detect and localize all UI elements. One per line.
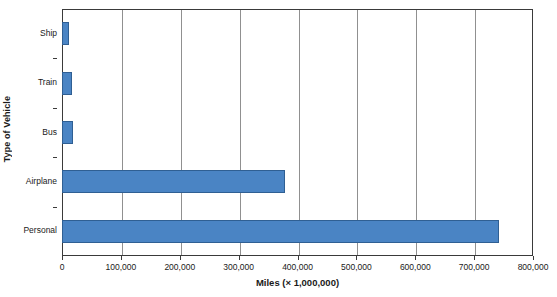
gridline: [357, 10, 358, 255]
x-tick-label-3: 300,000: [223, 262, 254, 272]
gridline: [181, 10, 182, 255]
x-axis-title: Miles (× 1,000,000): [62, 277, 533, 288]
x-tick-mark: [356, 256, 357, 260]
x-tick-mark: [180, 256, 181, 260]
gridline: [122, 10, 123, 255]
x-tick-mark: [415, 256, 416, 260]
x-tick-label-7: 700,000: [459, 262, 490, 272]
gridline: [240, 10, 241, 255]
y-axis-labels-group: ShipTrainBusAirplanePersonal: [0, 9, 57, 256]
y-tick-mark: [53, 207, 57, 208]
x-tick-mark: [62, 256, 63, 260]
x-tick-label-2: 200,000: [164, 262, 195, 272]
gridline: [416, 10, 417, 255]
bar-chart: Type of Vehicle ShipTrainBusAirplanePers…: [0, 0, 557, 297]
cropped-title-artifact: [300, 0, 430, 4]
x-tick-mark: [533, 256, 534, 260]
gridline: [299, 10, 300, 255]
y-tick-label-personal: Personal: [5, 225, 57, 235]
x-tick-mark: [474, 256, 475, 260]
plot-area: [62, 9, 533, 256]
y-tick-mark: [53, 157, 57, 158]
x-tick-mark: [298, 256, 299, 260]
x-tick-label-6: 600,000: [400, 262, 431, 272]
y-tick-label-ship: Ship: [5, 28, 57, 38]
x-tick-label-5: 500,000: [341, 262, 372, 272]
x-tick-label-1: 100,000: [106, 262, 137, 272]
gridline: [475, 10, 476, 255]
y-tick-mark: [53, 108, 57, 109]
y-tick-label-train: Train: [5, 77, 57, 87]
x-tick-mark: [121, 256, 122, 260]
y-tick-label-bus: Bus: [5, 127, 57, 137]
y-tick-mark: [53, 58, 57, 59]
x-tick-label-4: 400,000: [282, 262, 313, 272]
x-tick-label-8: 800,000: [518, 262, 549, 272]
y-tick-label-airplane: Airplane: [5, 176, 57, 186]
x-tick-label-0: 0: [60, 262, 65, 272]
x-tick-mark: [239, 256, 240, 260]
